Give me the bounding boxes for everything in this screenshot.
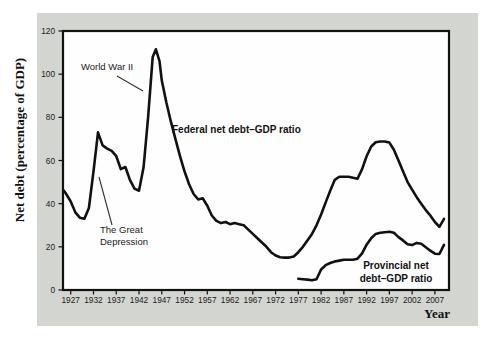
y-tick-label: 60 [46,156,56,166]
annotation-great-depression-line: Depression [100,236,148,247]
annotation-great-depression-line: The Great [100,224,143,235]
y-tick-label: 120 [41,26,55,36]
x-tick-label: 1927 [62,295,81,305]
net-debt-chart: 020406080100120 192719321937194219471952… [0,0,483,344]
federal-series-label-line: Federal net debt–GDP ratio [172,124,301,135]
provincial-series-label: Provincial netdebt–GDP ratio [360,260,433,284]
y-tick-label: 20 [46,242,56,252]
x-tick-label: 1947 [153,295,172,305]
x-tick-label: 1977 [289,295,308,305]
x-tick-label: 1997 [380,295,399,305]
x-tick-label: 1972 [266,295,285,305]
x-tick-label: 2002 [403,295,422,305]
annotation-great-depression: The GreatDepression [100,224,148,247]
provincial-series-label-line: Provincial net [363,260,429,271]
y-axis-title: Net debt (percentage of GDP) [12,58,27,222]
x-tick-label: 1932 [84,295,103,305]
x-tick-label: 1937 [107,295,126,305]
x-tick-label: 2007 [426,295,445,305]
provincial-series-label-line: debt–GDP ratio [360,273,433,284]
x-tick-label: 1982 [312,295,331,305]
x-axis-title: Year [424,306,450,321]
federal-series-label: Federal net debt–GDP ratio [172,124,301,135]
x-tick-label: 1962 [221,295,240,305]
annotation-world-war-2-line: World War II [81,61,133,72]
annotation-world-war-2: World War II [81,61,133,72]
x-tick-label: 1992 [357,295,376,305]
figure-container: 020406080100120 192719321937194219471952… [0,0,483,344]
y-tick-label: 40 [46,199,56,209]
x-tick-label: 1967 [244,295,263,305]
x-tick-label: 1942 [130,295,149,305]
x-tick-label: 1952 [175,295,194,305]
x-tick-label: 1957 [198,295,217,305]
y-tick-label: 0 [50,285,55,295]
y-tick-label: 80 [46,112,56,122]
y-tick-label: 100 [41,69,55,79]
x-tick-label: 1987 [335,295,354,305]
